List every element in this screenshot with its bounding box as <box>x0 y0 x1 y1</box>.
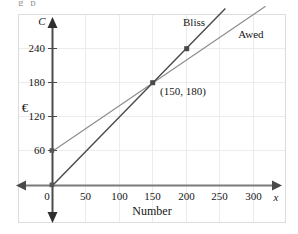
x-tick-label-100: 100 <box>111 190 128 202</box>
chart-figure: g p <box>0 0 298 234</box>
y-tick-label-120: 120 <box>29 110 46 122</box>
x-axis-title: Number <box>132 204 171 218</box>
annotation-intersection-coords: (150, 180) <box>160 85 206 98</box>
x-tick-label-300: 300 <box>245 190 262 202</box>
x-tick-label-0: 0 <box>44 190 50 202</box>
x-tick-label-200: 200 <box>178 190 195 202</box>
y-tick-label-240: 240 <box>29 42 46 54</box>
data-point-marker-intersection <box>150 80 155 85</box>
y-tick-label-180: 180 <box>29 76 46 88</box>
series-label-awed: Awed <box>238 28 264 40</box>
data-point-marker-bliss-200-240 <box>184 46 189 51</box>
x-tick-label-250: 250 <box>211 190 228 202</box>
x-axis-name: x <box>273 191 279 203</box>
chart-canvas: 240 180 120 60 0 50 100 150 200 250 300 … <box>0 0 298 234</box>
x-tick-label-50: 50 <box>80 190 92 202</box>
data-point-marker-origin <box>50 183 55 188</box>
y-axis-name: C <box>38 15 46 27</box>
y-axis-title: € <box>22 100 29 115</box>
x-tick-label-150: 150 <box>144 190 161 202</box>
y-tick-label-60: 60 <box>34 144 46 156</box>
clipped-text-above-figure: g p <box>18 0 138 6</box>
series-label-bliss: Bliss <box>183 16 205 28</box>
data-point-marker-awed-intercept <box>50 148 55 153</box>
